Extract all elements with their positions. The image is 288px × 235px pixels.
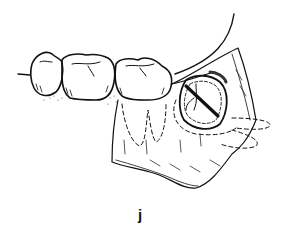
dashed-root-outlines	[122, 100, 270, 148]
cheek-outline	[175, 14, 234, 74]
teeth-row	[31, 52, 172, 100]
panel-label: j	[138, 206, 142, 223]
dental-illustration	[0, 0, 288, 235]
